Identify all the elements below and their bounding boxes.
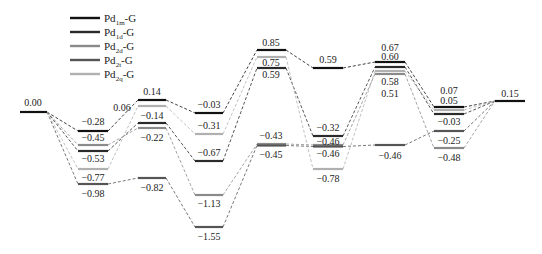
connector-line [47, 112, 78, 151]
energy-value-label: −0.22 [140, 132, 163, 143]
legend-label: Pd1d-G [104, 26, 134, 41]
connector-line [464, 101, 495, 148]
legend: Pd1m-GPd1d-GPd2d-GPd2t-GPd2q-G [70, 12, 136, 83]
energy-value-label: 0.06 [113, 102, 131, 113]
energy-value-label: 0.05 [440, 95, 458, 106]
energy-value-label: −0.67 [197, 147, 220, 158]
energy-value-label: 0.60 [381, 51, 399, 62]
level-labels: 0.00−0.28−0.45−0.53−0.77−0.980.140.06−0.… [24, 37, 519, 242]
energy-value-label: 0.51 [381, 88, 399, 99]
connector-line [47, 112, 78, 184]
energy-value-label: −0.03 [437, 116, 460, 127]
energy-value-label: 0.75 [262, 57, 280, 68]
connector-line [166, 123, 195, 161]
energy-value-label: −0.98 [81, 188, 104, 199]
energy-value-label: −1.55 [197, 231, 220, 242]
connector-line [286, 146, 313, 147]
connector-line [286, 57, 313, 169]
energy-value-label: −1.13 [197, 198, 220, 209]
connector-line [223, 57, 257, 134]
connector-line [343, 67, 375, 136]
energy-value-label: −0.03 [197, 99, 220, 110]
energy-value-label: 0.14 [143, 86, 161, 97]
connector-line [223, 146, 257, 228]
legend-label: Pd2d-G [104, 40, 134, 55]
energy-value-label: 0.59 [319, 54, 337, 65]
energy-value-label: 0.58 [381, 76, 399, 87]
connector-line [286, 68, 313, 136]
energy-value-label: 0.15 [501, 88, 519, 99]
energy-value-label: −0.31 [197, 120, 220, 131]
energy-value-label: −0.78 [316, 173, 339, 184]
energy-value-label: −0.82 [140, 182, 163, 193]
energy-value-label: −0.48 [437, 152, 460, 163]
energy-value-label: −0.43 [259, 130, 282, 141]
legend-label: Pd1m-G [104, 12, 136, 27]
energy-value-label: −0.77 [81, 172, 104, 183]
energy-value-label: −0.45 [81, 132, 104, 143]
connector-line [223, 50, 257, 113]
connector-line [343, 74, 375, 145]
connector-line [343, 71, 375, 169]
energy-value-label: 0.85 [262, 37, 280, 48]
energy-value-label: −0.25 [437, 135, 460, 146]
connector-line [405, 67, 434, 114]
energy-value-label: −0.46 [316, 136, 339, 147]
connector-line [464, 101, 495, 114]
energy-value-label: −0.45 [259, 149, 282, 160]
energy-value-label: −0.46 [378, 150, 401, 161]
connector-line [464, 101, 495, 107]
energy-profile-diagram: 0.00−0.28−0.45−0.53−0.77−0.980.140.06−0.… [0, 0, 542, 254]
connector-line [166, 106, 195, 134]
connector-line [108, 178, 138, 184]
energy-value-label: 0.00 [24, 97, 42, 108]
energy-value-label: −0.53 [81, 153, 104, 164]
connector-line [47, 112, 78, 169]
connector-line [166, 100, 195, 113]
energy-value-label: −0.32 [316, 122, 339, 133]
connector-line [286, 50, 313, 68]
connector-line [223, 144, 257, 195]
energy-value-label: −0.14 [140, 110, 163, 121]
connector-line [405, 131, 434, 145]
energy-value-label: −0.46 [316, 148, 339, 159]
connector-line [343, 62, 375, 68]
legend-label: Pd2t-G [104, 54, 133, 69]
legend-label: Pd2q-G [104, 68, 134, 83]
energy-value-label: −0.28 [81, 116, 104, 127]
connector-line [286, 144, 313, 145]
connector-line [108, 128, 138, 145]
connector-line [343, 145, 375, 147]
energy-value-label: 0.59 [262, 69, 280, 80]
connector-line [166, 128, 195, 195]
